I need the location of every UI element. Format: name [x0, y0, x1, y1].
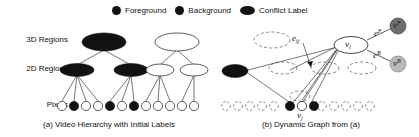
node-3d-region-2[interactable]: [155, 33, 199, 51]
node-label-v-j-subscript: j: [301, 115, 303, 121]
node-pixel-9[interactable]: [153, 101, 162, 110]
node-2d-region-3[interactable]: [146, 64, 174, 76]
panel-a-pixel-nodes: [57, 101, 198, 110]
node-pixel-1[interactable]: [57, 101, 66, 110]
node-label-v-b-superscript: B: [397, 58, 401, 64]
node-pixel-dark-right[interactable]: [309, 101, 318, 110]
ghost-pixel-4: [258, 102, 267, 111]
ghost-pixel-9: [354, 102, 363, 111]
edge-label-e-ij-subscript: ij: [296, 38, 299, 44]
node-pixel-6[interactable]: [117, 101, 126, 110]
node-2d-region-1[interactable]: [60, 64, 94, 77]
panel-b-edges-to-vi: [248, 46, 338, 106]
node-3d-region-1[interactable]: [82, 33, 126, 51]
ghost-pixel-5: [270, 102, 279, 111]
node-pixel-10[interactable]: [165, 101, 174, 110]
ghost-pixel-10: [366, 102, 375, 111]
node-pixel-4[interactable]: [93, 101, 102, 110]
panel-a-edges-level2: [62, 75, 194, 101]
node-pixel-7[interactable]: [129, 101, 138, 110]
node-pixel-11[interactable]: [177, 101, 186, 110]
ghost-ellipse-2d-1: [269, 62, 297, 74]
node-label-v-i: vi: [345, 39, 351, 50]
ghost-pixel-8: [342, 102, 351, 111]
edge-label-e-foreground: eF: [374, 28, 382, 38]
node-label-v-j: vj: [297, 110, 303, 121]
node-2d-region-4[interactable]: [180, 64, 208, 76]
node-label-v-background: vB: [393, 58, 401, 68]
edge-label-e-f-superscript: F: [378, 28, 382, 34]
panel-a-edges-level3-right: [160, 50, 194, 65]
node-label-v-i-subscript: i: [349, 44, 351, 50]
edge-label-e-b-superscript: B: [377, 50, 381, 56]
node-label-v-f-superscript: F: [397, 20, 401, 26]
node-pixel-3[interactable]: [81, 101, 90, 110]
edge-label-e-ij: eij: [292, 33, 299, 44]
node-pixel-12[interactable]: [189, 101, 198, 110]
node-conflict-label[interactable]: [222, 65, 248, 78]
edge-label-e-background: eB: [373, 50, 381, 60]
figure-canvas: [0, 0, 419, 137]
ghost-pixel-2: [234, 102, 243, 111]
node-pixel-5[interactable]: [105, 101, 114, 110]
ghost-pixel-7: [330, 102, 339, 111]
node-v-i[interactable]: [334, 37, 368, 54]
node-pixel-2[interactable]: [69, 101, 78, 110]
edge-e-ij-leader: [303, 43, 313, 67]
node-pixel-dark-left[interactable]: [285, 101, 294, 110]
node-label-v-foreground: vF: [393, 20, 401, 30]
node-2d-region-2[interactable]: [114, 64, 148, 77]
ghost-pixel-3: [246, 102, 255, 111]
ghost-ellipse-3d-1: [254, 32, 290, 48]
ghost-pixel-1: [222, 102, 231, 111]
ghost-ellipse-2d-3: [348, 62, 376, 74]
panel-a-edges-level3-left: [77, 50, 131, 65]
panel-a-graphics: [57, 33, 208, 111]
node-pixel-8[interactable]: [141, 101, 150, 110]
